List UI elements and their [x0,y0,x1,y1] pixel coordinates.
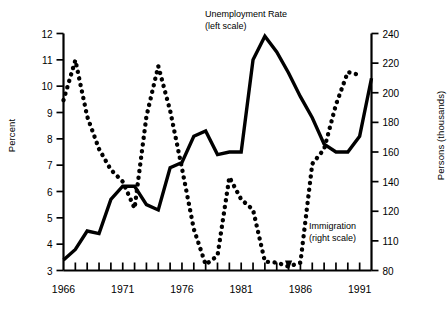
svg-text:12: 12 [41,29,53,40]
data-series [64,36,372,266]
y-axis-ticks-left: 3456789101112 [41,29,63,277]
y-axis-ticks-right: 80110120140160180200220240 [372,29,400,277]
svg-text:180: 180 [383,117,400,128]
svg-text:10: 10 [41,81,53,92]
svg-text:160: 160 [383,147,400,158]
svg-text:1976: 1976 [170,283,194,295]
svg-text:140: 140 [383,177,400,188]
svg-text:1971: 1971 [111,283,135,295]
svg-text:1981: 1981 [230,283,254,295]
svg-text:110: 110 [383,236,399,247]
svg-text:11: 11 [42,55,53,66]
svg-text:7: 7 [47,160,53,171]
svg-text:8: 8 [47,134,53,145]
chart-figure: Percent Persons (thousands) Unemployment… [0,0,448,311]
svg-text:9: 9 [47,108,53,119]
svg-text:1966: 1966 [52,283,76,295]
svg-text:240: 240 [383,29,400,40]
svg-text:4: 4 [47,239,53,250]
svg-text:220: 220 [383,58,400,69]
svg-text:80: 80 [383,266,395,277]
svg-text:200: 200 [383,88,400,99]
svg-text:3: 3 [47,266,53,277]
svg-text:1991: 1991 [348,283,372,295]
x-axis-ticks: 196619711976198119861991 [52,263,372,295]
chart-plot: 3456789101112 80110120140160180200220240… [0,0,448,311]
svg-text:1986: 1986 [289,283,313,295]
svg-text:120: 120 [383,206,400,217]
svg-text:5: 5 [47,213,53,224]
svg-text:6: 6 [47,187,53,198]
